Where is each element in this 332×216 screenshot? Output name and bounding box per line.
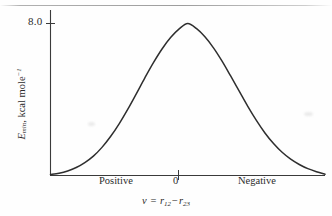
x-axis-tick-label-negative: Negative [238, 176, 276, 187]
figure-panel: 8.0 Emin, kcal mole−1 Positive 0 Negativ… [0, 0, 332, 216]
x-axis-operator: − [171, 195, 179, 206]
data-curve [51, 23, 326, 174]
y-axis-title: Emin, kcal mole−1 [16, 49, 28, 159]
x-axis-term1-subscript: 12 [164, 200, 171, 207]
x-axis-tick-label-zero: 0 [173, 176, 178, 187]
y-axis-units-exponent: −1 [15, 68, 22, 76]
x-axis-tick-label-positive: Positive [99, 176, 133, 187]
x-axis-equals: = [147, 195, 160, 206]
x-axis-term2-subscript: 23 [183, 200, 190, 207]
y-axis-symbol: E [16, 133, 27, 139]
plot-area [0, 0, 332, 216]
y-axis-tick-label: 8.0 [28, 16, 42, 27]
x-axis-title: v = r12−r23 [0, 196, 332, 207]
y-axis-units: , kcal mole [16, 76, 27, 122]
y-axis-symbol-subscript: min [20, 123, 27, 133]
